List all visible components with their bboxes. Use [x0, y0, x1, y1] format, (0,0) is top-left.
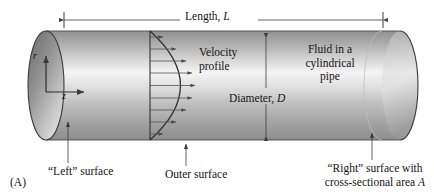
- velocity-profile-label: Velocity profile: [199, 46, 237, 73]
- right-surface-label: “Right” surface with cross-sectional are…: [318, 162, 432, 189]
- axial-axis-label: z: [62, 90, 66, 102]
- outer-surface-label: Outer surface: [165, 168, 227, 182]
- fluid-label: Fluid in a cylindrical pipe: [289, 43, 371, 84]
- radial-axis-label: r: [33, 50, 37, 62]
- diameter-label: Diameter, D: [229, 92, 285, 106]
- length-label: Length, L: [185, 10, 230, 24]
- left-surface-label: “Left” surface: [48, 165, 113, 179]
- panel-label: (A): [10, 176, 26, 190]
